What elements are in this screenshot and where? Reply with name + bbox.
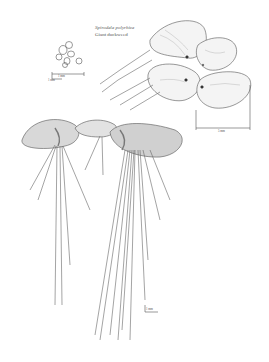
frond-scale-label: 5 mm	[218, 129, 225, 133]
scientific-name: Spirodela polyrhiza	[95, 25, 134, 30]
common-name: Giant duckweed	[95, 32, 128, 37]
seeds-scale-label: 1 mm	[58, 74, 65, 78]
duckweed-illustration	[0, 0, 269, 362]
seed-cluster	[56, 42, 82, 68]
seeds-scale-bar	[52, 72, 84, 79]
seeds-scale-label-bottom: 1 mm	[48, 78, 55, 82]
roots-scale-label: 1 mm	[146, 307, 153, 311]
